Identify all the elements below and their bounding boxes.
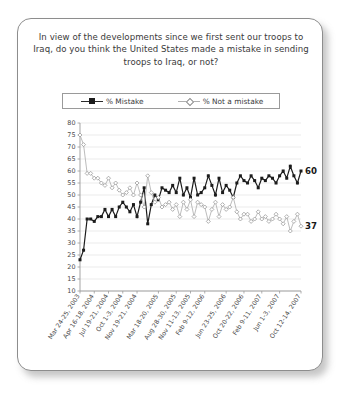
screenshot-root: In view of the developments since we fir…: [0, 0, 356, 397]
svg-text:65: 65: [67, 155, 75, 163]
svg-text:15: 15: [67, 275, 75, 283]
svg-text:30: 30: [67, 239, 75, 247]
svg-text:60: 60: [67, 167, 75, 175]
svg-text:25: 25: [67, 251, 75, 259]
svg-text:40: 40: [67, 215, 75, 223]
end-label-mistake: 60: [305, 166, 317, 176]
svg-text:50: 50: [67, 191, 75, 199]
chart-series-layer: [78, 133, 303, 261]
svg-text:70: 70: [67, 143, 75, 151]
line-chart-svg: 807570656055504540353025201510 Mar 24-25…: [18, 19, 323, 371]
chart-x-axis: Mar 24-25, 2003Apr 16-18, 2004Jul 19-21,…: [47, 291, 302, 341]
svg-text:55: 55: [67, 179, 75, 187]
svg-text:45: 45: [67, 203, 75, 211]
chart-card: In view of the developments since we fir…: [17, 18, 323, 371]
svg-text:35: 35: [67, 227, 75, 235]
end-label-not-a-mistake: 37: [305, 221, 317, 231]
svg-text:20: 20: [67, 263, 75, 271]
chart-end-labels: 6037: [305, 166, 317, 231]
svg-text:75: 75: [67, 131, 75, 139]
chart-gridlines: [80, 123, 301, 291]
chart-plot-area: 807570656055504540353025201510 Mar 24-25…: [18, 19, 323, 371]
chart-y-axis: 807570656055504540353025201510: [67, 119, 80, 295]
svg-text:80: 80: [67, 119, 75, 127]
